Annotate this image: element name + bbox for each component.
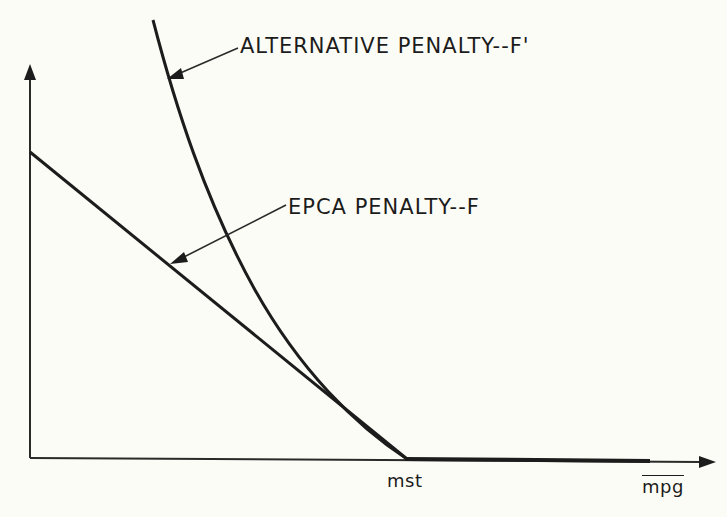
x-axis-label: mpg xyxy=(642,476,684,497)
y-axis-arrowhead-icon xyxy=(24,64,36,80)
epca-penalty-arrowhead-icon xyxy=(170,252,188,264)
penalty-diagram xyxy=(0,0,727,517)
x-axis-arrowhead-icon xyxy=(699,456,716,468)
epca-penalty-label: EPCA PENALTY--F xyxy=(288,195,480,219)
alt-penalty-arrowhead-icon xyxy=(167,68,184,79)
alternative-penalty-curve xyxy=(153,20,407,459)
alt-penalty-label: ALTERNATIVE PENALTY--F' xyxy=(240,34,530,58)
x-tick-mst: mst xyxy=(387,470,422,491)
alt-penalty-pointer xyxy=(178,48,238,74)
zero-penalty-segment xyxy=(405,459,650,461)
